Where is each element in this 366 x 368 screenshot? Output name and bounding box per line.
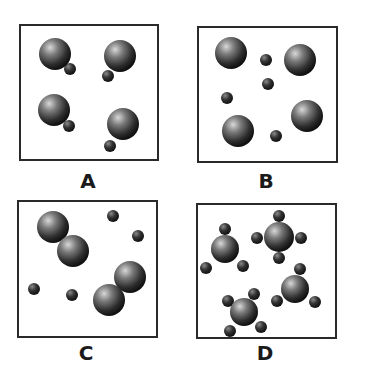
panel-label-d: D [245,343,285,363]
panel-b [197,26,338,163]
small-atom [270,130,282,142]
small-atom [221,92,233,104]
large-atom [38,94,70,126]
small-atom [200,262,212,274]
small-atom [237,260,249,272]
panel-d-drawing [198,205,335,337]
large-atom [291,100,323,132]
small-atom [309,296,321,308]
large-atom [230,298,258,326]
small-atom [107,210,119,222]
small-atom [251,232,263,244]
large-atom [93,284,125,316]
large-atom [39,38,71,70]
small-atom [262,78,274,90]
large-atom [284,44,316,76]
panel-a [19,24,159,161]
panel-a-drawing [21,26,157,159]
small-atom [294,263,306,275]
small-atom [224,325,236,337]
small-atom [28,283,40,295]
small-atom [219,223,231,235]
small-atom [273,210,285,222]
small-atom [273,252,285,264]
panel-label-c: C [66,343,106,363]
large-atom [281,275,309,303]
large-atom [215,37,247,69]
small-atom [295,232,307,244]
large-atom [57,235,89,267]
small-atom [132,230,144,242]
large-atom [211,235,239,263]
panel-label-b: B [246,171,286,191]
small-atom [248,288,260,300]
small-atom [66,289,78,301]
panel-c [17,200,158,338]
large-atom [222,115,254,147]
large-atom [107,108,139,140]
large-atom [264,222,294,252]
small-atom [104,140,116,152]
panel-b-drawing [199,28,336,161]
small-atom [260,54,272,66]
small-atom [255,321,267,333]
panel-d [196,203,337,339]
small-atom [271,295,283,307]
panel-c-drawing [19,202,156,336]
small-atom [102,70,114,82]
large-atom [104,40,136,72]
panel-label-a: A [68,171,108,191]
